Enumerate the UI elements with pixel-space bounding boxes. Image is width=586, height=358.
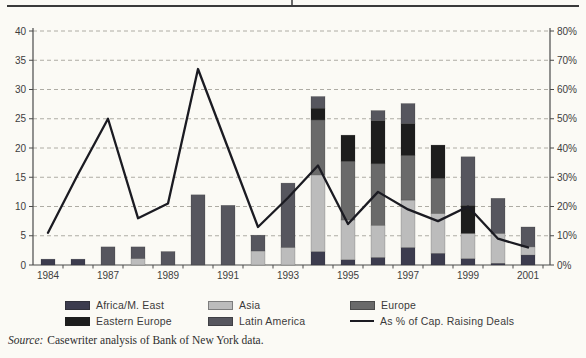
- right-axis-label-70: 70%: [557, 55, 577, 66]
- bar-segment-1995-africa-m-east: [341, 260, 355, 265]
- bar-segment-1994-eastern-europe: [311, 108, 325, 120]
- bar-segment-1994-africa-m-east: [311, 252, 325, 265]
- bar-segment-1998-africa-m-east: [431, 253, 445, 265]
- right-axis-label-40: 40%: [557, 143, 577, 154]
- right-axis-label-60: 60%: [557, 84, 577, 95]
- bar-segment-1997-europe: [401, 156, 415, 200]
- bar-segment-1997-africa-m-east: [401, 247, 415, 265]
- bar-segment-1994-latin-america: [311, 97, 325, 109]
- legend-label-asia: Asia: [239, 299, 260, 311]
- bar-segment-1997-latin-america: [401, 104, 415, 124]
- right-axis-label-10: 10%: [557, 230, 577, 241]
- bar-segment-1989-latin-america: [161, 252, 175, 265]
- source-text: Casewriter analysis of Bank of New York …: [47, 334, 263, 346]
- bar-segment-1992-latin-america: [251, 235, 265, 251]
- legend-item-line: As % of Cap. Raising Deals: [350, 314, 514, 328]
- right-axis-label-0: 0%: [557, 260, 572, 271]
- left-axis-label-0: 0: [20, 260, 26, 271]
- bar-segment-1988-latin-america: [131, 247, 145, 259]
- bar-segment-1987-latin-america: [101, 247, 115, 265]
- legend-item-latin-america: Latin America: [208, 314, 305, 328]
- legend-label-line: As % of Cap. Raising Deals: [380, 315, 514, 327]
- legend-label-latin-america: Latin America: [239, 315, 305, 327]
- legend-item-eastern-europe: Eastern Europe: [65, 314, 172, 328]
- x-axis-label-1999: 1999: [457, 270, 480, 281]
- bar-segment-1994-asia: [311, 175, 325, 252]
- legend-label-eastern-europe: Eastern Europe: [96, 315, 172, 327]
- bar-segment-1997-eastern-europe: [401, 123, 415, 155]
- right-axis-label-30: 30%: [557, 172, 577, 183]
- bar-segment-1988-asia: [131, 259, 145, 265]
- bar-segment-1995-europe: [341, 161, 355, 220]
- bar-segment-1991-latin-america: [221, 205, 235, 265]
- left-axis-label-5: 5: [20, 230, 26, 241]
- legend-swatch-asia: [208, 301, 233, 310]
- bar-segment-1996-eastern-europe: [371, 121, 385, 164]
- x-axis-label-1991: 1991: [217, 270, 240, 281]
- x-axis-label-1984: 1984: [37, 270, 60, 281]
- legend-label-africa: Africa/M. East: [96, 299, 164, 311]
- bar-segment-2000-latin-america: [491, 198, 505, 233]
- legend-item-asia: Asia: [208, 298, 260, 312]
- bar-segment-1986-africa-m-east: [71, 259, 85, 265]
- left-axis-label-10: 10: [15, 201, 27, 212]
- legend-line-swatch: [350, 320, 374, 322]
- bar-segment-1995-asia: [341, 220, 355, 260]
- bar-segment-1996-africa-m-east: [371, 257, 385, 265]
- left-axis-label-30: 30: [15, 84, 27, 95]
- legend-item-europe: Europe: [350, 298, 416, 312]
- page-top-rule-tick: [291, 0, 293, 5]
- bar-segment-2001-africa-m-east: [521, 255, 535, 265]
- bar-segment-1998-eastern-europe: [431, 145, 445, 178]
- x-axis-label-1987: 1987: [97, 270, 120, 281]
- x-axis-label-1989: 1989: [157, 270, 180, 281]
- left-axis-label-15: 15: [15, 172, 27, 183]
- x-axis-label-1995: 1995: [337, 270, 360, 281]
- source-note: Source:Casewriter analysis of Bank of Ne…: [8, 334, 264, 346]
- bar-segment-1999-asia: [461, 233, 475, 258]
- bar-segment-1990-latin-america: [191, 195, 205, 265]
- bar-segment-1995-eastern-europe: [341, 135, 355, 161]
- adr-stacked-bar-line-chart: 05101520253035400%10%20%30%40%50%60%70%8…: [0, 12, 586, 290]
- legend-item-africa: Africa/M. East: [65, 298, 164, 312]
- legend-swatch-latin-america: [208, 317, 233, 326]
- source-label: Source:: [8, 334, 43, 346]
- x-axis-label-1993: 1993: [277, 270, 300, 281]
- legend-swatch-africa: [65, 301, 90, 310]
- bar-segment-1993-asia: [281, 247, 295, 265]
- bar-segment-2000-africa-m-east: [491, 263, 505, 265]
- bar-segment-1998-europe: [431, 178, 445, 213]
- x-axis-label-2001: 2001: [517, 270, 540, 281]
- bar-segment-1984-africa-m-east: [41, 259, 55, 265]
- left-axis-label-20: 20: [15, 143, 27, 154]
- bar-segment-1999-africa-m-east: [461, 259, 475, 265]
- legend-swatch-eastern-europe: [65, 317, 90, 326]
- left-axis-label-40: 40: [15, 26, 27, 37]
- right-axis-label-80: 80%: [557, 26, 577, 37]
- bar-segment-1996-asia: [371, 225, 385, 257]
- page-top-rule: [7, 5, 579, 7]
- bar-segment-1996-latin-america: [371, 111, 385, 121]
- left-axis-label-25: 25: [15, 113, 27, 124]
- legend-swatch-europe: [350, 301, 375, 310]
- left-axis-label-35: 35: [15, 55, 27, 66]
- x-axis-label-1997: 1997: [397, 270, 420, 281]
- scanned-exhibit-page: 05101520253035400%10%20%30%40%50%60%70%8…: [0, 0, 586, 358]
- bar-segment-2001-latin-america: [521, 227, 535, 247]
- legend-label-europe: Europe: [381, 299, 416, 311]
- bar-segment-1999-latin-america: [461, 157, 475, 206]
- right-axis-label-20: 20%: [557, 201, 577, 212]
- bar-segment-1992-asia: [251, 251, 265, 265]
- right-axis-label-50: 50%: [557, 113, 577, 124]
